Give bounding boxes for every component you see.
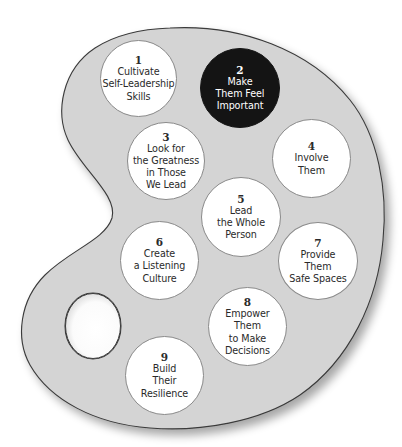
step-label-line: Decisions: [225, 345, 270, 357]
palette-diagram: 1 Cultivate Self-Leadership Skills 2 Mak…: [0, 0, 402, 447]
step-label-line: Person: [225, 229, 257, 241]
step-circle-7: 7 Provide Them Safe Spaces: [278, 222, 358, 300]
step-number: 3: [162, 131, 169, 143]
step-circle-9: 9 Build Their Resilience: [125, 336, 204, 415]
step-number: 2: [236, 64, 243, 76]
step-label-line: Their: [153, 375, 177, 387]
step-circle-3: 3 Look for the Greatness in Those We Lea…: [127, 122, 205, 200]
step-label-line: Involve: [294, 152, 328, 164]
step-label-line: Empower: [225, 308, 269, 320]
step-label-line: Make: [228, 76, 253, 88]
step-label-line: We Lead: [146, 179, 186, 191]
step-label-line: Them: [234, 320, 261, 332]
step-label-line: to Make: [229, 333, 266, 345]
step-label-line: Self-Leadership: [102, 78, 174, 90]
step-label-line: Them: [298, 165, 325, 177]
step-circle-1: 1 Cultivate Self-Leadership Skills: [100, 40, 177, 117]
step-circle-8: 8 Empower Them to Make Decisions: [208, 287, 287, 366]
step-number: 4: [308, 140, 315, 152]
step-label-line: Lead: [230, 205, 253, 217]
step-circle-2: 2 Make Them Feel Important: [200, 48, 280, 128]
step-label-line: in Those: [146, 167, 186, 179]
step-label-line: Them: [305, 261, 332, 273]
step-label-line: Resilience: [141, 388, 188, 400]
step-number: 5: [237, 193, 244, 205]
step-number: 7: [314, 237, 321, 249]
step-circle-4: 4 Involve Them: [272, 119, 351, 198]
step-label-line: Provide: [301, 249, 336, 261]
step-circle-5: 5 Lead the Whole Person: [201, 177, 281, 257]
step-label-line: Skills: [126, 91, 150, 103]
step-label-line: Create: [144, 248, 175, 260]
step-label-line: the Whole: [217, 217, 265, 229]
step-label-line: the Greatness: [133, 155, 199, 167]
step-label-line: Build: [153, 363, 177, 375]
step-number: 6: [156, 236, 163, 248]
step-label-line: a Listening: [134, 260, 185, 272]
step-label-line: Important: [217, 100, 264, 112]
step-label-line: Safe Spaces: [289, 273, 346, 285]
step-number: 9: [161, 351, 168, 363]
step-label-line: Look for: [147, 143, 185, 155]
step-label-line: Cultivate: [117, 66, 159, 78]
step-label-line: Culture: [142, 273, 176, 285]
step-number: 8: [244, 296, 251, 308]
step-label-line: Them Feel: [216, 88, 265, 100]
step-circle-6: 6 Create a Listening Culture: [120, 221, 199, 300]
step-number: 1: [135, 54, 142, 66]
thumb-hole: [66, 294, 121, 359]
